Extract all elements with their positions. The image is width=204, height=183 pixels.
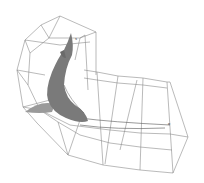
- start-marker-label: s: [75, 36, 77, 41]
- shark-model: [25, 33, 88, 122]
- deformation-diagram: s e: [0, 0, 204, 183]
- shark-body: [47, 33, 88, 122]
- deformation-path: [80, 118, 170, 129]
- ffd-lattice: [17, 16, 188, 173]
- end-marker-label: e: [168, 121, 171, 126]
